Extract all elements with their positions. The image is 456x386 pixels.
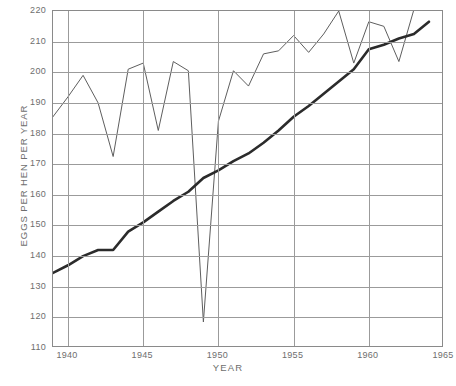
chart-figure: EGGS PER HEN PER YEAR 110120130140150160… — [0, 0, 456, 386]
x-axis-tick-labels: 194019451950195519601965 — [0, 0, 456, 386]
x-tick-label-1960: 1960 — [357, 350, 378, 360]
x-tick-label-1950: 1950 — [207, 350, 228, 360]
x-axis-title: YEAR — [0, 362, 456, 373]
x-tick-label-1945: 1945 — [132, 350, 153, 360]
x-tick-label-1940: 1940 — [56, 350, 77, 360]
x-tick-label-1965: 1965 — [432, 350, 453, 360]
x-tick-label-1955: 1955 — [282, 350, 303, 360]
